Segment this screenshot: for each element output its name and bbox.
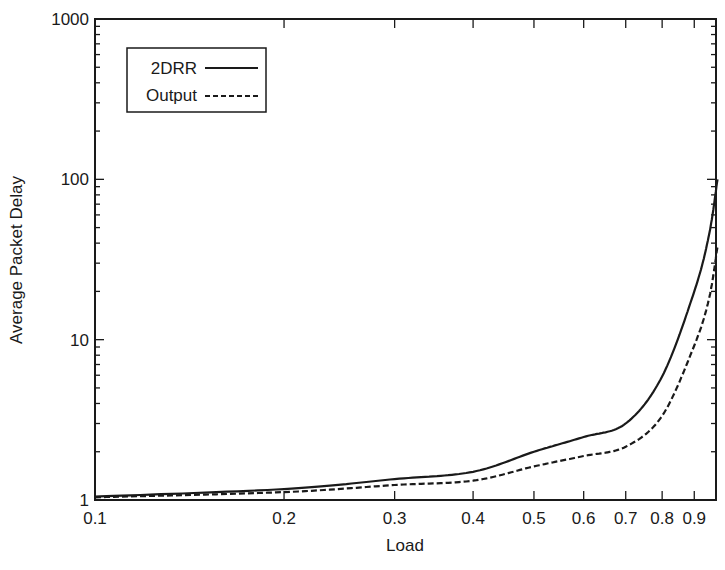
y-axis-title: Average Packet Delay bbox=[7, 176, 26, 344]
x-tick-label: 0.4 bbox=[461, 509, 485, 528]
x-axis-title: Load bbox=[386, 536, 424, 555]
legend-label-2drr: 2DRR bbox=[151, 59, 197, 78]
y-tick-label: 1000 bbox=[51, 10, 89, 29]
x-tick-label: 0.1 bbox=[83, 509, 107, 528]
x-tick-label: 0.8 bbox=[650, 509, 674, 528]
series-lines bbox=[95, 179, 718, 497]
x-tick-label: 0.9 bbox=[682, 509, 706, 528]
chart: 1101001000 0.10.20.30.40.50.60.70.80.9 L… bbox=[0, 0, 725, 570]
x-tick-label: 0.3 bbox=[383, 509, 407, 528]
x-tick-label: 0.2 bbox=[272, 509, 296, 528]
legend: 2DRR Output bbox=[127, 48, 266, 112]
series-line-2drr bbox=[95, 179, 718, 496]
x-tick-label: 0.6 bbox=[572, 509, 596, 528]
y-tick-label: 10 bbox=[70, 331, 89, 350]
legend-label-output: Output bbox=[146, 86, 197, 105]
series-line-output bbox=[95, 247, 718, 498]
y-tick-label: 100 bbox=[61, 170, 89, 189]
x-tick-label: 0.5 bbox=[522, 509, 546, 528]
x-tick-label: 0.7 bbox=[614, 509, 638, 528]
y-tick-label: 1 bbox=[80, 491, 89, 510]
